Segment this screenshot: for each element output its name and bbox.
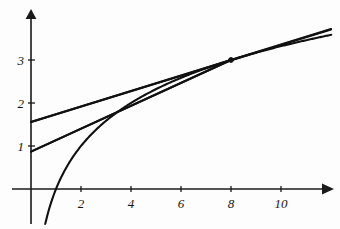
x-tick-label-2: 2 [78, 196, 85, 211]
x-tick-label-4: 4 [128, 196, 135, 211]
x-tick-label-8: 8 [228, 196, 235, 211]
x-tick-label-6: 6 [178, 196, 185, 211]
y-tick-label-1: 1 [18, 139, 25, 154]
tangent-point-marker [229, 58, 234, 63]
y-tick-label-3: 3 [17, 53, 25, 68]
y-tick-label-2: 2 [18, 96, 25, 111]
plot-area: 2 4 6 8 10 1 2 3 [0, 0, 340, 229]
plot-background [0, 0, 340, 229]
chart-figure: 2 4 6 8 10 1 2 3 [0, 0, 340, 229]
x-tick-label-10: 10 [275, 196, 289, 211]
